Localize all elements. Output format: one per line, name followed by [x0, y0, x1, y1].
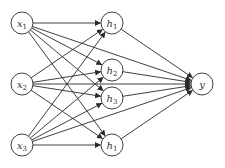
- node-x1: x1: [11, 12, 33, 34]
- edge-h4-y: [121, 90, 192, 138]
- network-graph: x1x2x3h1h2h3h1y: [0, 0, 225, 168]
- edge-x1-h3: [30, 30, 103, 91]
- edge-x2-h2: [33, 72, 101, 83]
- node-y: y: [191, 73, 213, 95]
- node-h2: h2: [101, 59, 123, 81]
- node-label: y: [198, 79, 205, 90]
- node-x2: x2: [11, 73, 33, 95]
- node-h1: h1: [101, 12, 123, 34]
- edge-x2-h4: [31, 90, 102, 138]
- node-h3: h3: [101, 87, 123, 109]
- node-x3: x3: [11, 134, 33, 156]
- node-h4: h1: [101, 134, 123, 156]
- edge-x3-h2: [30, 77, 103, 138]
- edge-x2-h3: [33, 86, 101, 97]
- edge-h1-y: [121, 29, 192, 77]
- connection-edges: [29, 23, 193, 145]
- neural-network-diagram: x1x2x3h1h2h3h1y: [0, 0, 225, 168]
- edge-x2-h1: [31, 29, 102, 77]
